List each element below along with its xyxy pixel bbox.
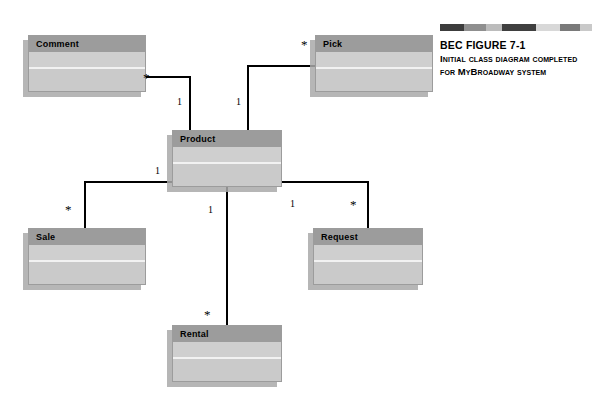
class-name-product: Product <box>173 131 281 147</box>
class-box-pick[interactable]: Pick <box>315 35 433 92</box>
class-box-request[interactable]: Request <box>313 228 423 285</box>
class-attributes-compartment <box>29 245 145 260</box>
class-operations-compartment <box>314 262 422 285</box>
class-box-body: Rental <box>172 325 282 382</box>
class-name-rental: Rental <box>173 326 281 342</box>
class-name-pick: Pick <box>316 36 432 52</box>
multiplicity-product-sale-one: 1 <box>155 166 160 176</box>
figure-caption-block: BEC FIGURE 7-1 Initial class diagram com… <box>440 24 592 77</box>
class-box-body: Comment <box>28 35 146 92</box>
multiplicity-product-comment-one: 1 <box>177 97 182 107</box>
figure-caption-line-2: for MyBroadway system <box>440 66 592 77</box>
class-box-body: Sale <box>28 228 146 285</box>
class-operations-compartment <box>173 164 281 187</box>
association-line-product-pick <box>248 66 315 130</box>
class-attributes-compartment <box>173 147 281 162</box>
class-attributes-compartment <box>314 245 422 260</box>
class-box-body: Product <box>172 130 282 187</box>
association-line-product-comment <box>146 77 190 130</box>
class-box-rental[interactable]: Rental <box>172 325 282 382</box>
multiplicity-rental-star: * <box>204 311 211 319</box>
multiplicity-product-pick-one: 1 <box>236 97 241 107</box>
multiplicity-comment-star: * <box>143 74 150 82</box>
class-attributes-compartment <box>316 52 432 67</box>
class-operations-compartment <box>316 69 432 92</box>
multiplicity-request-star: * <box>350 201 357 209</box>
multiplicity-product-request-one: 1 <box>290 199 295 209</box>
class-attributes-compartment <box>29 52 145 67</box>
multiplicity-pick-star: * <box>301 41 308 49</box>
class-operations-compartment <box>29 262 145 285</box>
class-attributes-compartment <box>173 342 281 357</box>
class-box-body: Pick <box>315 35 433 92</box>
class-box-body: Request <box>313 228 423 285</box>
figure-number: BEC FIGURE 7-1 <box>440 39 592 51</box>
figure-page: Comment Pick Product Sale <box>0 0 598 412</box>
class-operations-compartment <box>29 69 145 92</box>
multiplicity-product-rental-one: 1 <box>208 205 213 215</box>
class-operations-compartment <box>173 359 281 382</box>
class-name-request: Request <box>314 229 422 245</box>
class-box-sale[interactable]: Sale <box>28 228 146 285</box>
multiplicity-sale-star: * <box>65 206 72 214</box>
decorative-gradient-bar <box>440 24 592 31</box>
figure-caption-line-1: Initial class diagram completed <box>440 53 592 64</box>
association-line-product-sale <box>85 182 172 228</box>
class-box-comment[interactable]: Comment <box>28 35 146 92</box>
class-box-product[interactable]: Product <box>172 130 282 187</box>
class-name-comment: Comment <box>29 36 145 52</box>
class-name-sale: Sale <box>29 229 145 245</box>
